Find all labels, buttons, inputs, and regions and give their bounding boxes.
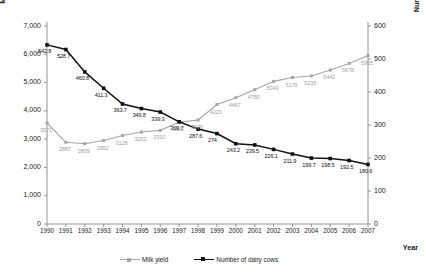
data-point-label: 243.2 — [227, 147, 240, 153]
data-point-marker — [215, 132, 219, 136]
data-point-marker — [291, 152, 295, 156]
data-point-marker — [367, 54, 370, 57]
legend-marker-icon-dairy-cows — [201, 257, 205, 261]
data-point-label: 192.5 — [340, 164, 353, 170]
data-point-label: 460.8 — [76, 75, 89, 81]
data-point-marker — [46, 121, 49, 124]
legend-label-milk-yield: Milk yield — [142, 256, 168, 263]
data-point-marker — [234, 142, 238, 146]
data-point-marker — [291, 76, 294, 79]
data-point-marker — [83, 70, 87, 74]
data-point-label: 5235 — [304, 80, 316, 86]
data-point-label: 3676 — [191, 124, 203, 130]
data-point-label: 528.7 — [57, 53, 70, 59]
data-point-marker — [253, 88, 256, 91]
data-point-label: 198.5 — [321, 162, 334, 168]
series-line-dairy-cows — [47, 45, 368, 165]
data-point-label: 363.7 — [114, 107, 127, 113]
data-point-marker — [328, 157, 332, 161]
data-point-label: 4223 — [210, 109, 222, 115]
data-point-label: 5442 — [323, 74, 335, 80]
legend-item-milk-yield[interactable]: Milk yield — [120, 256, 168, 263]
data-point-label: 3128 — [116, 140, 128, 146]
data-point-marker — [253, 143, 257, 147]
data-point-marker — [177, 120, 181, 124]
data-point-label: 5043 — [267, 85, 279, 91]
data-point-label: 4467 — [229, 102, 241, 108]
data-point-label: 5179 — [285, 82, 297, 88]
data-point-label: 5678 — [342, 67, 354, 73]
data-point-label: 3252 — [134, 136, 146, 142]
data-point-label: 2839 — [78, 148, 90, 154]
data-point-marker — [102, 86, 106, 90]
data-point-marker — [121, 134, 124, 137]
data-point-marker — [272, 80, 275, 83]
data-point-marker — [347, 159, 351, 163]
chart-legend: Milk yield Number of dairy cows — [120, 256, 278, 263]
data-point-marker — [140, 131, 143, 134]
data-point-marker — [329, 69, 332, 72]
legend-item-dairy-cows[interactable]: Number of dairy cows — [194, 256, 278, 263]
data-point-marker — [45, 43, 49, 47]
data-point-marker — [158, 110, 162, 114]
data-point-marker — [140, 107, 144, 111]
data-point-label: 274 — [208, 137, 217, 143]
data-point-marker — [64, 141, 67, 144]
data-point-marker — [310, 156, 314, 160]
data-point-marker — [102, 139, 105, 142]
data-point-label: 2887 — [59, 146, 71, 152]
data-point-marker — [159, 129, 162, 132]
data-point-label: 3310 — [153, 134, 165, 140]
data-point-label: 239.5 — [246, 148, 259, 154]
legend-line-icon-milk-yield — [120, 259, 140, 260]
data-point-label: 4750 — [248, 94, 260, 100]
data-point-marker — [272, 148, 276, 152]
legend-line-icon-dairy-cows — [194, 259, 214, 260]
data-point-label: 211.9 — [283, 158, 296, 164]
data-point-label: 542.8 — [38, 48, 51, 54]
data-point-marker — [197, 119, 200, 122]
data-point-marker — [348, 62, 351, 65]
data-point-label: 180.6 — [359, 168, 372, 174]
chart-container: Milk (kg milk/milking cow/year) Number o… — [0, 0, 426, 280]
data-point-label: 199.7 — [302, 162, 315, 168]
data-point-label: 411.3 — [95, 92, 108, 98]
data-point-label: 349.8 — [132, 112, 145, 118]
data-point-label: 5955 — [361, 60, 373, 66]
data-point-marker — [64, 48, 68, 52]
series-line-milk-yield — [47, 56, 368, 144]
data-point-marker — [234, 96, 237, 99]
data-point-label: 309.7 — [170, 125, 183, 131]
data-point-label: 226.1 — [265, 153, 278, 159]
data-point-marker — [83, 142, 86, 145]
data-point-marker — [215, 103, 218, 106]
legend-marker-icon-milk-yield — [127, 258, 131, 262]
data-point-label: 287.6 — [189, 133, 202, 139]
legend-label-dairy-cows: Number of dairy cows — [216, 256, 278, 263]
data-point-marker — [310, 74, 313, 77]
data-point-label: 339.3 — [151, 116, 164, 122]
data-point-marker — [366, 163, 370, 167]
data-point-marker — [121, 102, 125, 106]
data-point-label: 3571 — [40, 127, 52, 133]
data-point-label: 2952 — [97, 145, 109, 151]
